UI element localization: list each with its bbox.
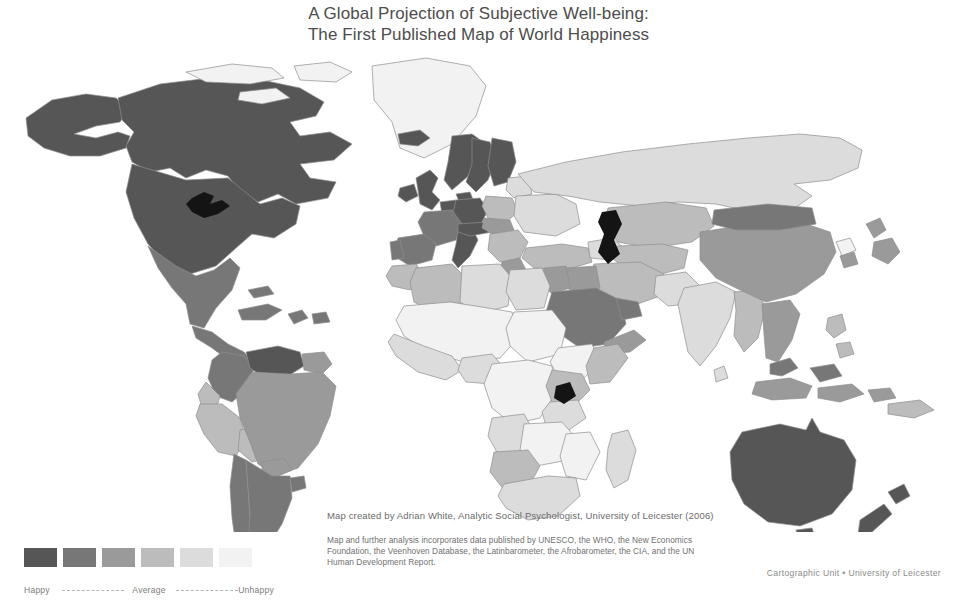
- region-india: [678, 282, 736, 366]
- region-united-kingdom: [416, 170, 440, 210]
- legend-label-row: Happy Average Unhappy: [24, 585, 274, 597]
- legend-rule-right: [176, 590, 238, 591]
- map-author-credit: Map created by Adrian White, Analytic So…: [327, 510, 714, 521]
- title-line-2: The First Published Map of World Happine…: [0, 25, 963, 46]
- happiness-legend: Happy Average Unhappy: [24, 548, 274, 597]
- region-australia: [730, 418, 856, 526]
- sources-line-3: Human Development Report.: [327, 557, 777, 568]
- legend-swatch-moderately-happy: [102, 548, 135, 567]
- region-russia: [518, 134, 862, 212]
- title-line-1: A Global Projection of Subjective Well-b…: [0, 4, 963, 25]
- region-indonesia: [752, 378, 896, 402]
- region-venezuela: [246, 346, 304, 376]
- region-turkey: [522, 244, 592, 270]
- region-papua-new-guinea: [888, 400, 934, 418]
- sources-line-2: Foundation, the Veenhoven Database, the …: [327, 546, 777, 557]
- legend-swatch-happiest: [24, 548, 57, 567]
- region-egypt: [506, 268, 550, 310]
- region-thailand-indochina: [762, 300, 800, 362]
- region-caribbean-islands: [238, 286, 330, 324]
- world-happiness-map: [0, 52, 963, 532]
- region-alaska: [26, 94, 130, 156]
- region-uruguay: [290, 476, 306, 492]
- region-mongolia: [712, 204, 816, 230]
- legend-swatch-happy: [63, 548, 96, 567]
- region-guianas: [302, 352, 332, 374]
- legend-label-average: Average: [132, 585, 165, 595]
- world-map-svg: [0, 52, 963, 532]
- legend-rule-left: [62, 590, 124, 591]
- region-belarus-ukraine: [514, 194, 580, 236]
- legend-swatch-unhappy: [180, 548, 213, 567]
- cartographic-unit-credit: Cartographic Unit • University of Leices…: [767, 568, 941, 578]
- legend-label-unhappy: Unhappy: [238, 585, 274, 595]
- legend-swatch-moderately-unhappy: [141, 548, 174, 567]
- region-japan: [866, 218, 900, 264]
- region-mozambique: [560, 432, 600, 480]
- region-tasmania: [796, 528, 816, 532]
- region-sri-lanka: [714, 366, 728, 382]
- region-philippines: [826, 314, 854, 358]
- page-title: A Global Projection of Subjective Well-b…: [0, 4, 963, 45]
- legend-swatch-row: [24, 548, 274, 567]
- legend-label-happy: Happy: [24, 585, 50, 595]
- sources-line-1: Map and further analysis incorporates da…: [327, 535, 777, 546]
- region-malaysia: [770, 358, 842, 382]
- legend-swatch-unhappiest: [219, 548, 252, 567]
- region-new-zealand: [858, 484, 910, 532]
- map-data-sources: Map and further analysis incorporates da…: [327, 535, 777, 568]
- region-madagascar: [606, 430, 636, 488]
- region-ireland: [398, 184, 418, 202]
